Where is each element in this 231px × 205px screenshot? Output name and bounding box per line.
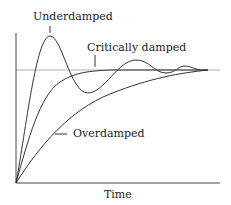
x-axis-label: Time: [104, 189, 132, 200]
damping-chart: Underdamped Critically damped Overdamped…: [0, 0, 231, 205]
underdamped-label: Underdamped: [33, 11, 113, 22]
underdamped-curve: [16, 36, 208, 183]
overdamped-label: Overdamped: [73, 128, 145, 139]
chart-plot: [0, 0, 231, 205]
critically-damped-label: Critically damped: [87, 42, 186, 53]
